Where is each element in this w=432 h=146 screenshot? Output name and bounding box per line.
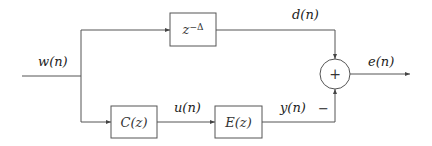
signal-e-label: e(n) xyxy=(368,55,394,68)
signal-y-label: y(n) xyxy=(280,101,306,114)
delay-exponent: −Δ xyxy=(189,22,203,32)
signal-w-label: w(n) xyxy=(38,55,68,68)
controller-block-label: C(z) xyxy=(111,106,157,138)
desired-path xyxy=(216,30,335,59)
signal-d-label: d(n) xyxy=(292,8,319,21)
plant-block-label: E(z) xyxy=(215,106,262,138)
delay-base: z xyxy=(183,22,190,37)
minus-sign: − xyxy=(318,102,329,115)
summer-plus-sign: + xyxy=(320,59,350,89)
signal-u-label: u(n) xyxy=(174,101,201,114)
delay-block-label: z−Δ xyxy=(170,13,216,46)
